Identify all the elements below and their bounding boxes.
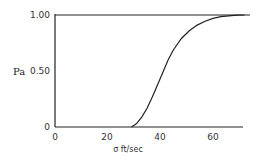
x-tick-label: 20 [101, 132, 113, 142]
chart: 1.00 0.50 0 Pa 0 20 40 60 σ ft/sec [0, 0, 259, 161]
x-axis-label: σ ft/sec [113, 145, 143, 154]
x-tick-label: 40 [154, 132, 166, 142]
y-tick-label: 0 [44, 122, 50, 132]
x-tick-label: 0 [52, 132, 58, 142]
probability-curve [131, 15, 244, 127]
y-axis-label: Pa [13, 66, 25, 77]
x-tick-label: 60 [207, 132, 219, 142]
y-tick-label: 1.00 [30, 10, 50, 20]
y-tick-label: 0.50 [30, 66, 50, 76]
